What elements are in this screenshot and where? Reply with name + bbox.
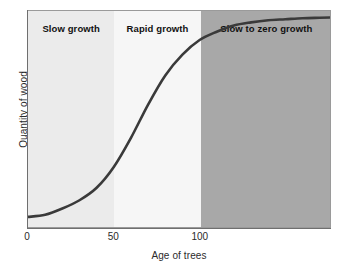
y-axis-line <box>27 10 28 229</box>
x-axis-title: Age of trees <box>27 250 331 261</box>
x-axis-line <box>27 228 331 229</box>
growth-curve-figure: Quantity of wood Slow growth Rapid growt… <box>0 0 342 271</box>
x-tick-label-50: 50 <box>108 231 119 242</box>
curve-path <box>28 18 330 217</box>
growth-curve <box>28 11 330 227</box>
x-tick-label-100: 100 <box>191 231 208 242</box>
plot-area: Slow growth Rapid growth Slow to zero gr… <box>27 10 331 228</box>
x-tick-label-0: 0 <box>24 231 30 242</box>
